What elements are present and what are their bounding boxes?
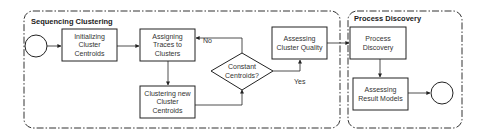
start-event xyxy=(25,35,47,57)
process-diagram: Sequencing Clustering Process Discovery … xyxy=(0,0,484,135)
node-assessing-cluster-quality: Assessing Cluster Quality xyxy=(272,27,327,59)
svg-text:Assigning: Assigning xyxy=(152,33,182,41)
svg-text:Process: Process xyxy=(365,35,391,42)
edge-label-no: No xyxy=(203,37,212,44)
svg-text:Centroids?: Centroids? xyxy=(225,72,259,79)
decision-constant-centroids: Constant Centroids? xyxy=(211,53,273,90)
edge-newcent-decision xyxy=(195,90,242,105)
lane-title-process-discovery: Process Discovery xyxy=(354,14,422,23)
node-process-discovery: Process Discovery xyxy=(350,27,406,59)
svg-text:Result Models: Result Models xyxy=(358,95,403,102)
svg-text:Initializing: Initializing xyxy=(74,33,105,41)
end-event xyxy=(431,82,453,104)
svg-text:Clusters: Clusters xyxy=(155,50,181,57)
node-assessing-result-models: Assessing Result Models xyxy=(353,78,408,110)
svg-text:Discovery: Discovery xyxy=(363,44,394,52)
svg-text:Traces to: Traces to xyxy=(153,41,182,48)
svg-text:Cluster Quality: Cluster Quality xyxy=(277,44,323,52)
svg-text:Cluster: Cluster xyxy=(78,41,101,48)
edge-label-yes: Yes xyxy=(294,78,306,85)
svg-text:Centroids: Centroids xyxy=(75,50,105,57)
edge-decision-quality-yes xyxy=(273,60,300,71)
node-assigning-traces-to-clusters: Assigning Traces to Clusters xyxy=(140,29,195,61)
svg-text:Constant: Constant xyxy=(228,63,256,70)
svg-text:Assessing: Assessing xyxy=(365,86,397,94)
svg-text:Assessing: Assessing xyxy=(284,35,316,43)
node-clustering-new-cluster-centroids: Clustering new Cluster Centroids xyxy=(140,86,195,118)
svg-text:Cluster: Cluster xyxy=(156,98,179,105)
svg-text:Centroids: Centroids xyxy=(153,107,183,114)
svg-text:Clustering new: Clustering new xyxy=(144,90,191,98)
lane-title-sequencing-clustering: Sequencing Clustering xyxy=(31,17,113,26)
node-initializing-cluster-centroids: Initializing Cluster Centroids xyxy=(62,29,117,61)
